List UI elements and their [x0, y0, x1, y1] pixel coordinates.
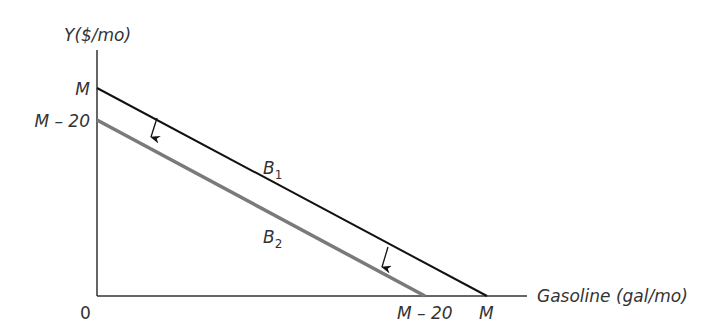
label-b2-sub: 2	[275, 237, 283, 251]
y-axis-label: Y($/mo)	[64, 25, 131, 45]
x-tick-m: M	[479, 303, 494, 323]
y-tick-m-minus-20: M – 20	[34, 111, 90, 131]
origin-label: 0	[80, 303, 91, 323]
y-tick-m: M	[75, 79, 90, 99]
shift-arrow-upper	[151, 118, 157, 137]
budget-constraint-chart: Y($/mo) M M – 20 0 M – 20 M Gasoline (ga…	[0, 0, 718, 335]
label-b1-base: B	[263, 158, 275, 178]
x-axis-label: Gasoline (gal/mo)	[537, 286, 688, 306]
shift-arrow-lower	[382, 247, 388, 267]
label-b2: B2	[263, 227, 282, 251]
budget-line-b2	[97, 120, 425, 296]
budget-line-b1	[97, 88, 487, 296]
label-b1-sub: 1	[275, 168, 283, 182]
x-tick-m-minus-20: M – 20	[397, 303, 453, 323]
label-b2-base: B	[263, 227, 275, 247]
